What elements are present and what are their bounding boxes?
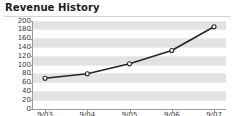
widget-header: Revenue History (0, 0, 234, 18)
data-point-marker[interactable] (128, 62, 132, 66)
line-series (33, 21, 226, 109)
title-divider (4, 16, 230, 17)
y-axis-tick-label: 80 (1, 70, 31, 77)
data-point-marker[interactable] (43, 76, 47, 80)
y-axis-tick-label: 120 (1, 53, 31, 60)
x-axis-line (32, 109, 226, 110)
x-axis-tick-mark (172, 109, 173, 112)
revenue-history-widget: Revenue History 200180160140120100806040… (0, 0, 234, 116)
x-axis-tick-mark (214, 109, 215, 112)
x-axis-tick-mark (87, 109, 88, 112)
y-axis-tick-label: 100 (1, 62, 31, 69)
series-line (45, 27, 214, 78)
chart-container: 200180160140120100806040200 9/039/049/05… (0, 18, 234, 116)
x-axis-tick-mark (130, 109, 131, 112)
y-axis-tick-label: 160 (1, 35, 31, 42)
plot-area (33, 21, 226, 109)
page-title: Revenue History (5, 2, 100, 14)
y-axis-tick-label: 60 (1, 79, 31, 86)
data-point-marker[interactable] (212, 25, 216, 29)
y-axis-tick-label: 20 (1, 97, 31, 104)
y-axis-tick-label: 40 (1, 88, 31, 95)
y-axis-tick-label: 180 (1, 26, 31, 33)
x-axis-tick-mark (45, 109, 46, 112)
data-point-marker[interactable] (85, 72, 89, 76)
data-point-marker[interactable] (170, 48, 174, 52)
y-axis-tick-label: 200 (1, 18, 31, 25)
y-axis-tick-label: 140 (1, 44, 31, 51)
y-axis-labels: 200180160140120100806040200 (0, 18, 31, 116)
